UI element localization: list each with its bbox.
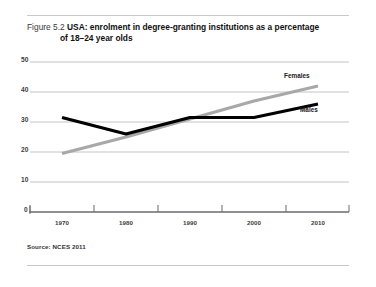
x-axis-label-1970: 1970 bbox=[42, 219, 82, 226]
x-axis-label-1980: 1980 bbox=[106, 219, 146, 226]
x-axis-label-1990: 1990 bbox=[170, 219, 210, 226]
source-note: Source: NCES 2011 bbox=[27, 243, 86, 250]
y-axis-label-0: 0 bbox=[24, 206, 28, 213]
y-axis-label-50: 50 bbox=[21, 56, 28, 63]
x-axis-label-2010: 2010 bbox=[298, 219, 338, 226]
series-line-males bbox=[62, 104, 318, 134]
y-axis-label-40: 40 bbox=[21, 86, 28, 93]
y-axis-label-10: 10 bbox=[21, 176, 28, 183]
bottom-divider bbox=[27, 265, 349, 266]
figure-container: Figure 5.2 USA: enrolment in degree-gran… bbox=[0, 0, 376, 287]
x-axis-label-2000: 2000 bbox=[234, 219, 274, 226]
x-axis-ticks bbox=[30, 205, 349, 212]
y-axis-label-20: 20 bbox=[21, 146, 28, 153]
y-axis-label-30: 30 bbox=[21, 116, 28, 123]
series-label-females: Females bbox=[284, 72, 310, 79]
series-label-males: Males bbox=[300, 106, 318, 113]
series-line-females bbox=[62, 86, 318, 154]
